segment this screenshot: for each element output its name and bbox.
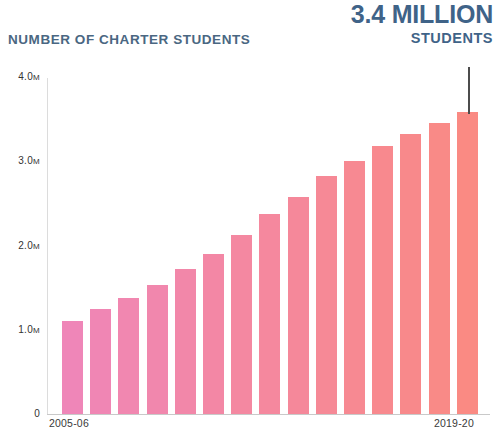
- bar[interactable]: [372, 146, 393, 414]
- x-axis-tick-first: 2005-06: [49, 417, 89, 429]
- bar[interactable]: [259, 214, 280, 415]
- chart-plot-area: NUMBER OF CHARTER STUDENTS 3.4 MILLION S…: [0, 0, 497, 433]
- callout-pointer-line: [468, 67, 470, 114]
- bar[interactable]: [400, 134, 421, 414]
- bar[interactable]: [203, 254, 224, 414]
- bar[interactable]: [231, 235, 252, 414]
- bar[interactable]: [344, 161, 365, 414]
- bar[interactable]: [175, 269, 196, 414]
- bar[interactable]: [118, 298, 139, 414]
- bar[interactable]: [429, 123, 450, 414]
- bar[interactable]: [316, 176, 337, 414]
- bar[interactable]: [147, 285, 168, 414]
- bar[interactable]: [288, 197, 309, 414]
- bar[interactable]: [457, 112, 478, 414]
- bar-series: [0, 0, 497, 433]
- bar[interactable]: [90, 309, 111, 414]
- x-axis-tick-last: 2019-20: [434, 417, 474, 429]
- bar[interactable]: [62, 321, 83, 414]
